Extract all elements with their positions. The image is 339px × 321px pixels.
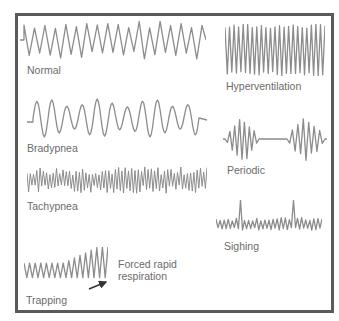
waveform-sighing xyxy=(216,200,322,236)
waveform-tachypnea xyxy=(27,166,207,194)
label-sighing: Sighing xyxy=(224,240,259,252)
label-periodic: Periodic xyxy=(227,164,265,176)
label-trapping: Trapping xyxy=(26,294,67,306)
waveform-periodic xyxy=(223,117,327,161)
label-tachypnea: Tachypnea xyxy=(27,200,78,212)
label-hyperventilation: Hyperventilation xyxy=(226,80,301,92)
waveform-hyperventilation xyxy=(225,24,325,76)
annotation-forced-rapid-respiration: Forced rapid respiration xyxy=(118,258,208,282)
waveform-bradypnea xyxy=(27,98,207,138)
waveform-trapping xyxy=(24,247,108,283)
label-normal: Normal xyxy=(27,64,61,76)
waveform-normal xyxy=(20,20,206,60)
label-bradypnea: Bradypnea xyxy=(27,142,78,154)
